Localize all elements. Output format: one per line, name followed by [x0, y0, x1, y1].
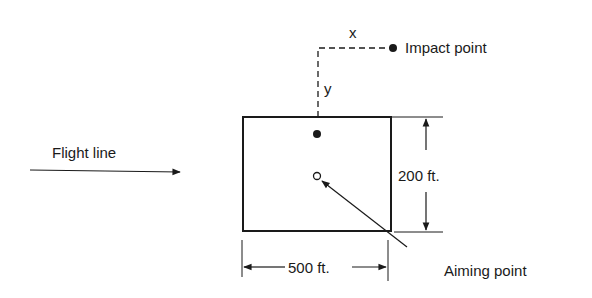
height-dimension-label: 200 ft. [398, 167, 440, 184]
impact-point-label: Impact point [405, 39, 488, 56]
impact-point-marker [389, 44, 397, 52]
y-offset-label: y [324, 80, 332, 97]
projected-impact-dot [313, 130, 321, 138]
flight-line-label: Flight line [52, 144, 116, 161]
flight-line-arrow [30, 170, 180, 172]
aiming-point-label: Aiming point [444, 262, 527, 279]
bombing-target-diagram: Flight line x y Impact point Aiming poin… [0, 0, 592, 298]
width-dimension-label: 500 ft. [288, 259, 330, 276]
aiming-point-marker [314, 173, 321, 180]
x-offset-label: x [349, 24, 357, 41]
aiming-point-leader-arrow [322, 181, 407, 247]
